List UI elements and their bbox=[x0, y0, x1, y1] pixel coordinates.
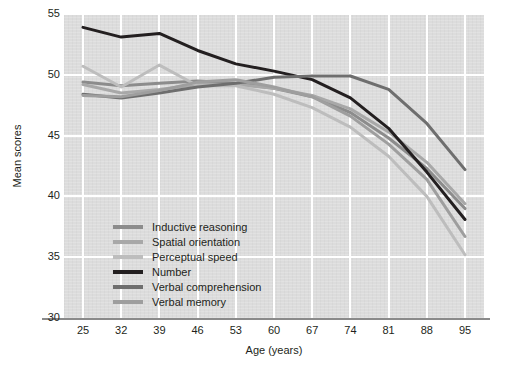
legend-color-swatch bbox=[113, 255, 143, 259]
x-axis-tick-label: 88 bbox=[407, 324, 447, 336]
legend-item-label: Inductive reasoning bbox=[152, 221, 247, 233]
x-axis-tick-label: 39 bbox=[139, 324, 179, 336]
legend-item-label: Verbal memory bbox=[152, 296, 226, 308]
y-axis-title: Mean scores bbox=[11, 101, 23, 211]
y-axis-tick-label: 55 bbox=[34, 8, 60, 19]
legend-item: Spatial orientation bbox=[113, 234, 303, 249]
series-line bbox=[83, 27, 465, 219]
line-chart: 555045403530 2532394653606774818895 Age … bbox=[0, 0, 518, 373]
chart-legend: Inductive reasoningSpatial orientationPe… bbox=[113, 219, 303, 309]
y-axis-tick-label: 35 bbox=[34, 251, 60, 262]
legend-item-label: Number bbox=[152, 266, 191, 278]
x-axis-tick-label: 74 bbox=[330, 324, 370, 336]
legend-color-swatch bbox=[113, 285, 143, 289]
x-axis-tick-label: 81 bbox=[369, 324, 409, 336]
series-line bbox=[83, 81, 465, 209]
x-axis-line bbox=[42, 318, 490, 320]
legend-item-label: Verbal comprehension bbox=[152, 281, 261, 293]
x-axis-tick-label: 67 bbox=[292, 324, 332, 336]
legend-item: Verbal comprehension bbox=[113, 279, 303, 294]
series-line bbox=[83, 85, 465, 204]
x-axis-title: Age (years) bbox=[64, 344, 484, 356]
legend-color-swatch bbox=[113, 270, 143, 274]
x-axis-tick-label: 25 bbox=[63, 324, 103, 336]
legend-item: Inductive reasoning bbox=[113, 219, 303, 234]
legend-color-swatch bbox=[113, 225, 143, 229]
x-axis-tick-label: 32 bbox=[101, 324, 141, 336]
legend-item-label: Perceptual speed bbox=[152, 251, 238, 263]
x-axis-tick-label: 53 bbox=[216, 324, 256, 336]
legend-color-swatch bbox=[113, 240, 143, 244]
x-axis-tick-label: 60 bbox=[254, 324, 294, 336]
x-axis-tick-label: 95 bbox=[445, 324, 485, 336]
y-axis-tick-label: 45 bbox=[34, 130, 60, 141]
series-line bbox=[83, 80, 465, 237]
x-axis-tick-label: 46 bbox=[178, 324, 218, 336]
legend-item: Perceptual speed bbox=[113, 249, 303, 264]
y-axis-tick-label: 50 bbox=[34, 69, 60, 80]
legend-item: Verbal memory bbox=[113, 294, 303, 309]
y-axis-tick-labels: 555045403530 bbox=[30, 0, 60, 340]
legend-item-label: Spatial orientation bbox=[152, 236, 240, 248]
legend-item: Number bbox=[113, 264, 303, 279]
y-axis-tick-label: 30 bbox=[34, 312, 60, 323]
legend-color-swatch bbox=[113, 300, 143, 304]
y-axis-tick-label: 40 bbox=[34, 190, 60, 201]
